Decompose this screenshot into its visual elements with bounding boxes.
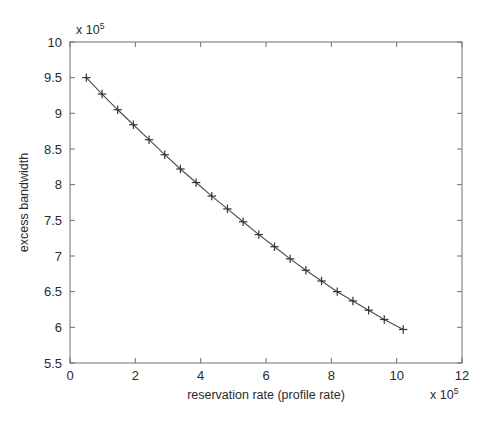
x-tick-label: 2 xyxy=(132,368,139,383)
y-tick-label: 7 xyxy=(55,249,62,264)
plot-axes-box xyxy=(70,42,462,363)
x-tick-label: 8 xyxy=(328,368,335,383)
chart-svg: 0246810125.566.577.588.599.510reservatio… xyxy=(0,0,495,425)
x-tick-label: 10 xyxy=(389,368,403,383)
chart-figure: 0246810125.566.577.588.599.510reservatio… xyxy=(0,0,495,425)
y-tick-label: 9 xyxy=(55,106,62,121)
x-tick-label: 6 xyxy=(262,368,269,383)
y-tick-label: 5.5 xyxy=(44,356,62,371)
data-point-marker xyxy=(364,306,372,314)
y-tick-label: 8.5 xyxy=(44,142,62,157)
y-tick-label: 6 xyxy=(55,320,62,335)
y-axis-label: excess bandwidth xyxy=(17,153,31,252)
y-tick-label: 10 xyxy=(48,35,62,50)
y-tick-label: 9.5 xyxy=(44,70,62,85)
y-tick-label: 8 xyxy=(55,177,62,192)
data-line xyxy=(86,78,403,330)
x-tick-label: 4 xyxy=(197,368,204,383)
x-axis-multiplier: x 105 xyxy=(430,386,459,402)
data-point-marker xyxy=(399,325,407,333)
x-axis-label: reservation rate (profile rate) xyxy=(187,388,345,402)
data-point-marker xyxy=(317,277,325,285)
y-tick-label: 6.5 xyxy=(44,284,62,299)
data-point-marker xyxy=(349,297,357,305)
data-point-marker xyxy=(302,266,310,274)
y-tick-label: 7.5 xyxy=(44,213,62,228)
x-tick-label: 0 xyxy=(66,368,73,383)
y-axis-multiplier: x 105 xyxy=(76,21,105,37)
x-tick-label: 12 xyxy=(455,368,469,383)
data-point-marker xyxy=(380,315,388,323)
data-point-marker xyxy=(333,287,341,295)
